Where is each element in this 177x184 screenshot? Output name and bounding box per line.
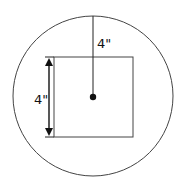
center-point (90, 94, 96, 100)
radius-label: 4" (97, 36, 111, 51)
diagram-canvas: 4" 4" (0, 0, 177, 184)
side-length-label: 4" (34, 92, 48, 107)
